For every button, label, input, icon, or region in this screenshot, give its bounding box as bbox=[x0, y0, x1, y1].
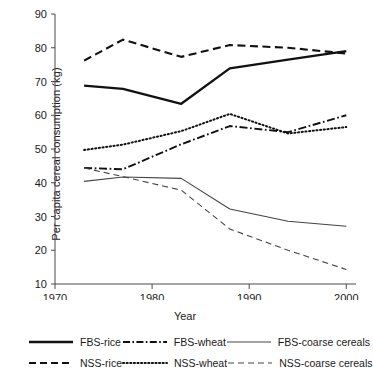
legend-item-nss-wheat: NSS-wheat bbox=[122, 357, 227, 369]
legend-item-fbs-coarse-cereals: FBS-coarse cereals bbox=[226, 336, 370, 348]
series-line-fbs-wheat bbox=[84, 115, 346, 169]
legend-item-fbs-rice: FBS-rice bbox=[28, 336, 122, 348]
legend-label: FBS-coarse cereals bbox=[278, 336, 370, 348]
legend-label: NSS-coarse cereals bbox=[279, 357, 372, 369]
y-tick-label: 50 bbox=[35, 143, 47, 155]
series-line-fbs-rice bbox=[84, 51, 346, 104]
x-tick-label: 1980 bbox=[140, 292, 164, 300]
legend-item-nss-coarse-cereals: NSS-coarse cereals bbox=[227, 357, 372, 369]
line-chart-svg: 1020304050607080901970198019902000 bbox=[0, 0, 370, 300]
series-line-nss-coarse-cereals bbox=[84, 168, 346, 270]
legend-label: NSS-rice bbox=[80, 357, 122, 369]
legend-label: FBS-rice bbox=[80, 336, 121, 348]
x-tick-label: 1990 bbox=[237, 292, 261, 300]
axis-spines bbox=[55, 14, 356, 284]
legend-swatch-dashed-thin bbox=[227, 358, 273, 368]
y-tick-label: 40 bbox=[35, 177, 47, 189]
legend-swatch-dotted bbox=[122, 358, 168, 368]
y-tick-label: 70 bbox=[35, 76, 47, 88]
y-tick-label: 20 bbox=[35, 244, 47, 256]
legend-swatch-dash-dot bbox=[122, 337, 168, 347]
legend-swatch-solid-thin bbox=[226, 337, 272, 347]
legend-row-nss: NSS-rice NSS-wheat NSS-coarse cereals bbox=[28, 352, 370, 373]
legend-item-nss-rice: NSS-rice bbox=[28, 357, 122, 369]
y-tick-label: 80 bbox=[35, 42, 47, 54]
legend-swatch-dashed bbox=[28, 358, 74, 368]
legend-row-fbs: FBS-rice FBS-wheat FBS-coarse cereals bbox=[28, 331, 370, 352]
y-tick-label: 30 bbox=[35, 211, 47, 223]
plot-area: 1020304050607080901970198019902000 bbox=[0, 0, 370, 300]
legend-label: NSS-wheat bbox=[174, 357, 227, 369]
y-tick-label: 10 bbox=[35, 278, 47, 290]
legend-label: FBS-wheat bbox=[174, 336, 226, 348]
x-axis-title: Year bbox=[0, 310, 370, 322]
y-tick-label: 60 bbox=[35, 109, 47, 121]
chart-legend: FBS-rice FBS-wheat FBS-coarse cereals NS… bbox=[28, 331, 370, 373]
series-line-fbs-coarse-cereals bbox=[84, 177, 346, 226]
legend-item-fbs-wheat: FBS-wheat bbox=[122, 336, 226, 348]
x-tick-label: 1970 bbox=[43, 292, 67, 300]
x-tick-label: 2000 bbox=[334, 292, 358, 300]
legend-swatch-solid-thick bbox=[28, 337, 74, 347]
y-tick-label: 90 bbox=[35, 8, 47, 20]
